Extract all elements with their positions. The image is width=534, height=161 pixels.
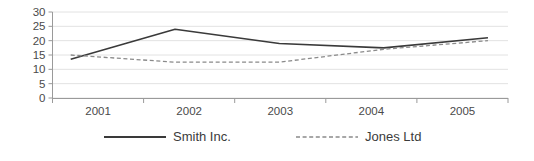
- y-axis-ticks: [49, 12, 53, 98]
- x-axis-tick-label: 2004: [359, 105, 385, 117]
- line-chart: 302520151050 20012002200320042005 Smith …: [0, 0, 534, 161]
- y-axis-tick-label: 10: [33, 63, 46, 75]
- y-axis-tick-label: 15: [33, 49, 46, 61]
- legend-label-2: Jones Ltd: [365, 129, 421, 144]
- y-axis-tick-label: 20: [33, 35, 46, 47]
- x-axis-tick-labels: 20012002200320042005: [85, 105, 475, 117]
- y-axis-tick-label: 30: [33, 6, 46, 18]
- data-series-group: [71, 29, 488, 62]
- y-axis-tick-label: 0: [39, 92, 45, 104]
- y-axis-tick-labels: 302520151050: [33, 6, 46, 104]
- x-axis-tick-label: 2002: [176, 105, 202, 117]
- x-axis-tick-label: 2005: [450, 105, 476, 117]
- legend-label-1: Smith Inc.: [173, 129, 231, 144]
- gridlines: [53, 12, 509, 98]
- y-axis-tick-label: 25: [33, 20, 46, 32]
- x-axis-tick-label: 2001: [85, 105, 111, 117]
- chart-canvas: 302520151050 20012002200320042005 Smith …: [0, 0, 534, 161]
- y-axis-tick-label: 5: [39, 78, 45, 90]
- x-axis-tick-label: 2003: [267, 105, 293, 117]
- chart-legend: Smith Inc.Jones Ltd: [104, 129, 421, 144]
